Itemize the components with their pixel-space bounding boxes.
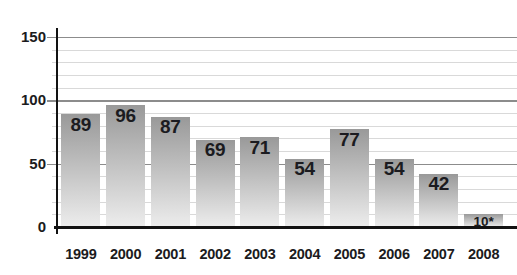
x-tick-label: 2007	[417, 246, 462, 262]
y-tick-label: 50	[0, 156, 46, 172]
y-tick-label: 0	[0, 219, 46, 235]
x-tick-label: 2000	[103, 246, 148, 262]
x-tick-label: 2002	[193, 246, 238, 262]
x-tick-label: 2008	[461, 246, 506, 262]
x-tick-label: 2001	[148, 246, 193, 262]
bar-chart: 89968769715477544210* 050100150199920002…	[0, 0, 517, 275]
x-tick-label: 2005	[327, 246, 372, 262]
x-tick-label: 2006	[372, 246, 417, 262]
y-tick-label: 100	[0, 92, 46, 108]
x-tick-label: 1999	[59, 246, 104, 262]
y-tick-label: 150	[0, 29, 46, 45]
axis-labels-layer: 0501001501999200020012002200320042005200…	[0, 0, 517, 275]
x-tick-label: 2003	[238, 246, 283, 262]
x-tick-label: 2004	[282, 246, 327, 262]
